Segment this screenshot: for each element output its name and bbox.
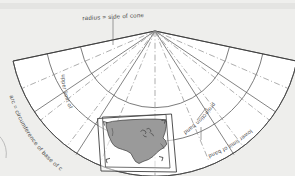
conic-projection-figure: radius = side of cone arc = circumferenc… xyxy=(0,0,295,176)
top-edge-strip xyxy=(0,0,295,3)
projection-diagram-svg: radius = side of cone arc = circumferenc… xyxy=(0,0,295,176)
